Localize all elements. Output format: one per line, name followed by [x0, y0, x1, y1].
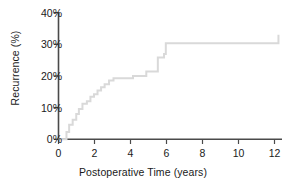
y-tick-label-40: 40%: [28, 7, 62, 19]
x-tick-label-8: 8: [191, 147, 215, 159]
y-tick-label-10: 10%: [28, 102, 62, 114]
y-axis-title: Recurrence (%): [9, 3, 21, 133]
x-tick-label-12: 12: [263, 147, 287, 159]
x-tick-label-10: 10: [227, 147, 251, 159]
recurrence-step-curve: [59, 35, 279, 140]
y-tick-label-0: 0%: [28, 133, 62, 145]
x-tick-label-0: 0: [47, 147, 71, 159]
plot-area: [0, 0, 286, 188]
x-tick-label-2: 2: [83, 147, 107, 159]
x-tick-label-4: 4: [119, 147, 143, 159]
y-tick-label-20: 20%: [28, 70, 62, 82]
x-tick-label-6: 6: [155, 147, 179, 159]
x-axis-title: Postoperative Time (years): [0, 166, 286, 178]
recurrence-chart-figure: 0% 10% 20% 30% 40% 0 2 4 6 8 10 12 Recur…: [0, 0, 286, 188]
y-tick-label-30: 30%: [28, 38, 62, 50]
